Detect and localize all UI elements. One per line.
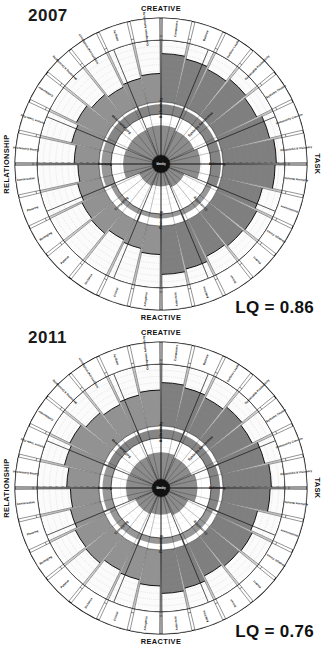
summary-ring-label: Achieving (209, 162, 226, 166)
axis-label-task: TASK (313, 477, 322, 498)
summary-ring-label: Achieving (209, 486, 226, 490)
summary-ring-label: Relating (98, 162, 112, 166)
axis-label-task: TASK (313, 153, 322, 174)
summary-ring-label: Authenticity (159, 422, 163, 442)
axis-label-creative: CREATIVE (141, 4, 181, 13)
axis-label-reactive: REACTIVE (141, 313, 182, 322)
hub-label: Identity (156, 486, 166, 490)
summary-ring-label: Protecting (159, 535, 163, 552)
lq-score: LQ = 0.86 (235, 298, 314, 318)
summary-ring-label: Authenticity (159, 98, 163, 118)
radar-svg: ComposureBalanceSelfless LeaderSustainab… (0, 324, 323, 648)
summary-ring-label: Relating (98, 486, 112, 490)
circumplex-chart-2007: ComposureBalanceSelfless LeaderSustainab… (0, 0, 323, 324)
lq-score: LQ = 0.76 (235, 622, 314, 642)
axis-label-creative: CREATIVE (141, 328, 181, 337)
summary-ring-label: Protecting (159, 211, 163, 228)
axis-label-relationship: RELATIONSHIP (2, 134, 11, 193)
axis-label-relationship: RELATIONSHIP (2, 458, 11, 517)
circumplex-chart-2011: ComposureBalanceSelfless LeaderSustainab… (0, 324, 323, 648)
profile-panel-2011: 2011 ComposureBalanceSelfless LeaderSust… (0, 324, 323, 648)
radar-svg: ComposureBalanceSelfless LeaderSustainab… (0, 0, 323, 324)
hub-label: Identity (156, 162, 166, 166)
axis-label-reactive: REACTIVE (141, 637, 182, 646)
profile-panel-2007: 2007 ComposureBalanceSelfless LeaderSust… (0, 0, 323, 324)
